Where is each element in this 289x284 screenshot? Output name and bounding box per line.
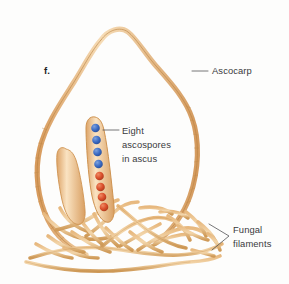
label-ascospores-line1: Eight <box>122 125 144 136</box>
label-fungal-filaments-line1: Fungal <box>233 224 262 235</box>
ascus-with-spores <box>86 117 114 222</box>
ascospore-3 <box>93 148 102 157</box>
panel-letter: f. <box>44 65 50 76</box>
ascospore-8 <box>100 203 109 212</box>
label-ascocarp: Ascocarp <box>212 65 252 76</box>
ascospore-2 <box>92 136 101 145</box>
ascospore-5 <box>95 172 104 181</box>
ascospore-7 <box>98 193 107 202</box>
label-ascospores-line2: ascospores <box>122 139 171 150</box>
label-fungal-filaments-line2: filaments <box>233 238 272 249</box>
ascospore-6 <box>96 183 105 192</box>
label-ascospores-line3: in ascus <box>122 153 157 164</box>
ascospore-1 <box>91 124 100 133</box>
ascospore-4 <box>94 160 103 169</box>
ascocarp-figure: f. Ascocarp Eight ascospores in ascus Fu… <box>0 0 289 284</box>
